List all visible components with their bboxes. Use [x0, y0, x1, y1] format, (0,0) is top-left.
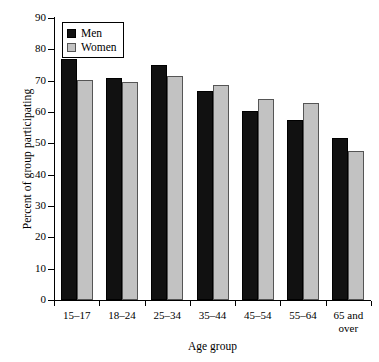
x-axis-tick [326, 301, 327, 306]
legend: Men Women [62, 22, 124, 58]
y-axis-tick [48, 81, 54, 82]
bar-women-6 [348, 151, 364, 300]
y-axis-tick [48, 143, 54, 144]
legend-swatch-women-icon [67, 43, 76, 52]
bar-men-5 [287, 120, 303, 300]
y-axis-tick-label: 30 [6, 200, 46, 211]
legend-item-women: Women [67, 40, 116, 54]
bar-women-3 [213, 85, 229, 300]
bar-men-1 [106, 78, 122, 300]
legend-item-men: Men [67, 26, 116, 40]
y-axis-tick [48, 175, 54, 176]
x-axis-tick [235, 301, 236, 306]
legend-swatch-men-icon [67, 29, 76, 38]
y-axis-tick-label: 0 [6, 294, 46, 305]
bar-men-3 [197, 91, 213, 300]
y-axis-tick-label: 80 [6, 43, 46, 54]
x-axis-tick-label: 65 andover [318, 309, 378, 334]
y-axis-line [54, 17, 55, 301]
y-axis-tick [48, 269, 54, 270]
bar-women-5 [303, 103, 319, 300]
legend-label-men: Men [81, 27, 102, 39]
x-axis-tick [99, 301, 100, 306]
bar-women-1 [122, 82, 138, 300]
x-axis-tick [190, 301, 191, 306]
bar-men-6 [332, 138, 348, 300]
y-axis-tick-label: 10 [6, 263, 46, 274]
y-axis-tick-label: 40 [6, 169, 46, 180]
y-axis-tick [48, 237, 54, 238]
x-axis-line [54, 300, 371, 301]
y-axis-tick [48, 49, 54, 50]
y-axis-tick-label: 90 [6, 12, 46, 23]
y-axis-tick [48, 18, 54, 19]
x-axis-tick [54, 301, 55, 306]
y-axis-tick [48, 112, 54, 113]
x-axis-tick-label-line: over [318, 322, 378, 335]
x-axis-tick [145, 301, 146, 306]
x-axis-tick [371, 301, 372, 306]
x-axis-title: Age group [54, 340, 371, 352]
bar-women-0 [77, 80, 93, 300]
bar-men-2 [151, 65, 167, 300]
y-axis-tick-label: 60 [6, 106, 46, 117]
y-axis-title: Percent of group participating [18, 18, 36, 300]
x-axis-tick [280, 301, 281, 306]
y-axis-tick-label: 70 [6, 75, 46, 86]
bar-women-4 [258, 99, 274, 300]
bar-chart: Percent of group participating 010203040… [0, 0, 379, 362]
bar-men-0 [61, 59, 77, 300]
x-axis-tick-label-line: 65 and [318, 309, 378, 322]
legend-label-women: Women [81, 41, 116, 53]
y-axis-tick-label: 50 [6, 137, 46, 148]
y-axis-tick [48, 206, 54, 207]
bar-women-2 [167, 76, 183, 300]
bar-men-4 [242, 111, 258, 300]
y-axis-tick-label: 20 [6, 231, 46, 242]
